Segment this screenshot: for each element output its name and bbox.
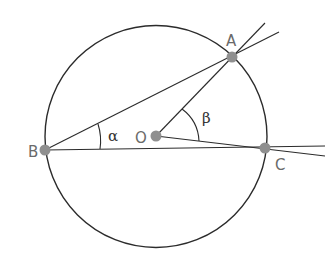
point-C: [260, 143, 271, 154]
point-A: [227, 52, 238, 63]
point-B: [40, 145, 51, 156]
segment-BA-extended: [45, 32, 279, 150]
point-O: [151, 131, 162, 142]
label-beta: β: [202, 109, 211, 127]
label-O: O: [135, 129, 147, 147]
label-alpha: α: [108, 127, 118, 145]
segment-BC-extended: [45, 146, 325, 150]
angle-alpha-arc: [98, 124, 101, 149]
label-B: B: [28, 143, 38, 161]
circle-angle-diagram: A B C O α β: [0, 0, 334, 267]
label-C: C: [275, 156, 285, 174]
label-A: A: [226, 32, 237, 50]
angle-beta-arc: [182, 109, 199, 141]
